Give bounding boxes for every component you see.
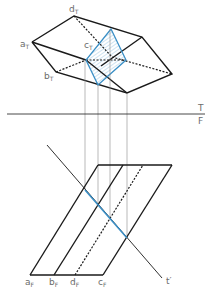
label-d-top: dT <box>69 4 79 15</box>
label-c-front: cF <box>98 277 107 288</box>
label-a-front: aF <box>25 277 35 288</box>
label-b-front: bF <box>49 277 59 288</box>
edge-a-c <box>32 42 86 60</box>
hidden-edge-b <box>56 60 86 72</box>
fold-label-top: T <box>197 103 204 113</box>
cutting-plane-section <box>85 190 127 238</box>
cutting-plane-label: t′ <box>166 276 172 286</box>
front-view <box>30 165 172 275</box>
label-d-front: dF <box>70 277 80 288</box>
label-b-top: bT <box>44 71 54 82</box>
label-c-top: cT <box>84 40 93 51</box>
projection-diagram: T F t′ dT aT cT bT aF bF dF cF <box>0 0 212 299</box>
label-a-top: aT <box>20 39 30 50</box>
fold-label-bottom: F <box>198 116 203 126</box>
